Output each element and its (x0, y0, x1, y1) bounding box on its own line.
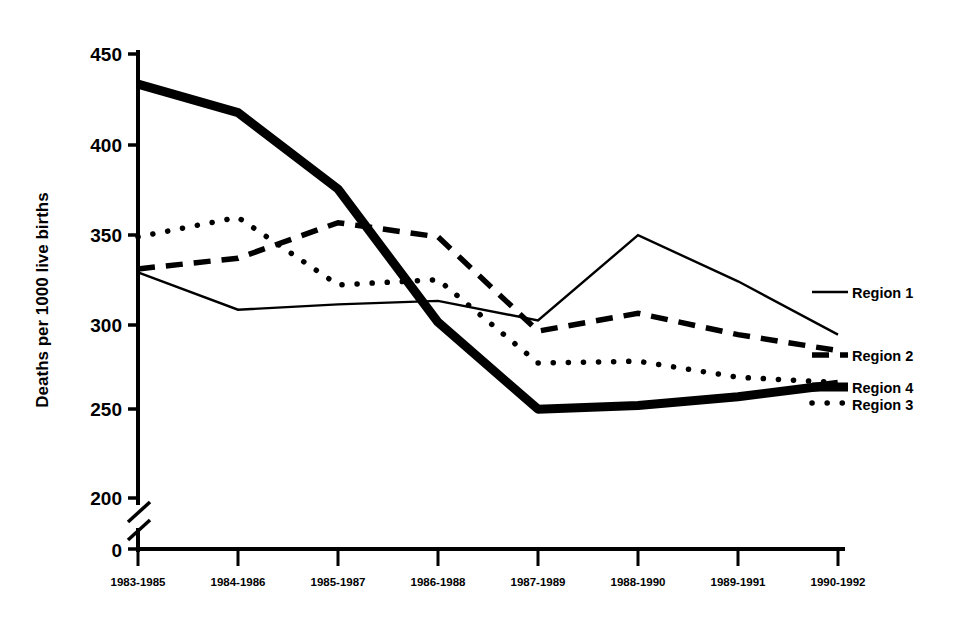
x-tick-label: 1989-1991 (711, 576, 767, 588)
y-axis-title: Deaths per 1000 live births (33, 192, 52, 407)
series-line-region-3 (138, 217, 838, 382)
y-tick-label: 0 (111, 540, 122, 561)
series-line-region-2 (138, 223, 838, 351)
y-tick-label: 250 (90, 399, 122, 420)
y-tick-label: 200 (90, 488, 122, 509)
y-tick-label: 450 (90, 44, 122, 65)
x-tick-label: 1983-1985 (111, 576, 167, 588)
legend-label-region-1: Region 1 (852, 285, 913, 301)
y-axis-tick-labels: 450 400 350 300 250 200 0 (90, 44, 122, 561)
x-tick-label: 1990-1992 (811, 576, 866, 588)
y-tick-label: 300 (90, 315, 122, 336)
line-chart: 450 400 350 300 250 200 0 1983-1985 1984… (0, 0, 954, 632)
x-tick-label: 1986-1988 (411, 576, 467, 588)
legend-label-region-3: Region 3 (852, 397, 913, 413)
legend-label-region-4: Region 4 (852, 380, 913, 396)
y-tick-label: 400 (90, 135, 122, 156)
x-axis-tick-labels: 1983-1985 1984-1986 1985-1987 1986-1988 … (111, 576, 866, 588)
chart-container: 450 400 350 300 250 200 0 1983-1985 1984… (0, 0, 954, 632)
x-tick-label: 1987-1989 (511, 576, 566, 588)
x-axis-ticks (138, 549, 838, 566)
x-tick-label: 1985-1987 (311, 576, 366, 588)
legend-label-region-2: Region 2 (852, 348, 913, 364)
y-tick-label: 350 (90, 225, 122, 246)
series-line-region-4 (138, 84, 838, 409)
x-tick-label: 1988-1990 (611, 576, 666, 588)
series-group (138, 84, 838, 409)
x-tick-label: 1984-1986 (211, 576, 266, 588)
